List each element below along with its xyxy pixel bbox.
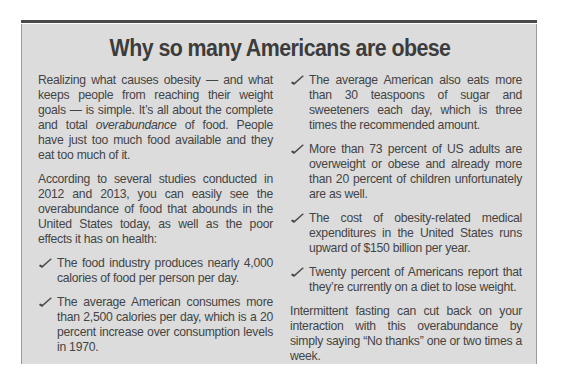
bullet-text: The average American consumes more than … <box>57 295 273 354</box>
checkmark-icon <box>290 266 305 278</box>
bullet-text: The food industry produces nearly 4,000 … <box>57 256 273 285</box>
checkmark-icon <box>38 296 53 308</box>
intro-paragraph: Realizing what causes obesity — and what… <box>38 73 273 163</box>
checkmark-icon <box>38 257 53 269</box>
intro-emphasis: overabundance <box>96 118 177 132</box>
sidebar-body: Why so many Americans are obese Realizin… <box>21 24 537 364</box>
checkmark-icon <box>290 212 305 224</box>
bullet-item: Twenty percent of Americans report that … <box>290 265 522 295</box>
checkmark-icon <box>290 74 305 86</box>
bullet-text: The average American also eats more than… <box>309 73 522 132</box>
bullet-item: The average American consumes more than … <box>38 295 273 355</box>
bullet-text: The cost of obesity-related medical expe… <box>309 211 522 255</box>
bullet-text: Twenty percent of Americans report that … <box>309 265 522 294</box>
left-column: Realizing what causes obesity — and what… <box>38 73 273 364</box>
top-rule <box>21 20 537 23</box>
sidebar-box: Why so many Americans are obese Realizin… <box>21 20 537 360</box>
bullet-item: The cost of obesity-related medical expe… <box>290 211 522 256</box>
checkmark-icon <box>290 143 305 155</box>
closing-paragraph: Intermittent fasting can cut back on you… <box>290 304 522 364</box>
bullet-text: More than 73 percent of US adults are ov… <box>309 142 522 201</box>
bullet-item: More than 73 percent of US adults are ov… <box>290 142 522 202</box>
bullet-item: The food industry produces nearly 4,000 … <box>38 256 273 286</box>
bullet-item: The average American also eats more than… <box>290 73 522 133</box>
sidebar-title: Why so many Americans are obese <box>40 35 520 62</box>
studies-paragraph: According to several studies conducted i… <box>38 172 273 247</box>
right-column: The average American also eats more than… <box>290 73 522 368</box>
